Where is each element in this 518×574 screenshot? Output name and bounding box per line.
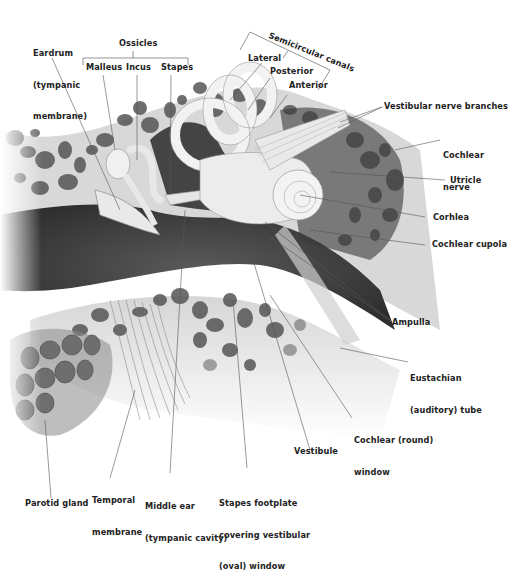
label-stapes: Stapes — [161, 62, 193, 73]
label-lateral: Lateral — [248, 53, 281, 64]
label-posterior: Posterior — [270, 66, 313, 77]
label-incus: Incus — [126, 62, 151, 73]
label-anterior: Anterior — [289, 80, 328, 91]
label-middle-ear: Middle ear (tympanic cavity) — [145, 480, 227, 554]
label-stapes-footplate: Stapes footplate covering vestibular (ov… — [219, 477, 310, 574]
label-ampulla: Ampulla — [392, 317, 430, 328]
label-vestibular-nerve-branches: Vestibular nerve branches — [384, 101, 508, 112]
label-utricle: Utricle — [450, 175, 481, 186]
label-malleus: Malleus — [86, 62, 122, 73]
label-temporal-membrane: Temporal membrane — [92, 474, 142, 548]
label-vestibule: Vestibule — [294, 446, 338, 457]
label-cochlear-nerve: Cochlear nerve — [443, 129, 484, 203]
label-ossicles: Ossicles — [119, 38, 157, 49]
label-cochlear-round-window: Cochlear (round) window — [354, 414, 433, 488]
label-eardrum: Eardrum (tympanic membrane) — [33, 27, 87, 132]
label-cochlear-cupola: Cochlear cupola — [432, 239, 507, 250]
label-parotid-gland: Parotid gland — [25, 498, 89, 509]
label-cochlea: Corhlea — [433, 212, 469, 223]
